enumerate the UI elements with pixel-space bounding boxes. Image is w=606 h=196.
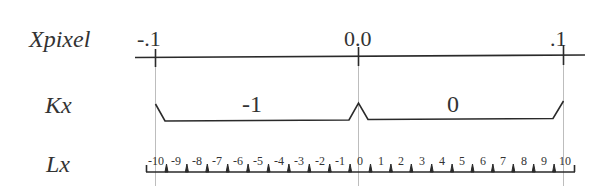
lx-label: 9 bbox=[541, 155, 547, 167]
lx-label: 2 bbox=[398, 155, 404, 167]
lx-label: 5 bbox=[459, 155, 465, 167]
lx-label: -7 bbox=[212, 155, 222, 167]
lx-label: 0 bbox=[357, 155, 363, 167]
lx-label: 1 bbox=[378, 155, 384, 167]
lx-label: 3 bbox=[419, 155, 425, 167]
lx-label: -10 bbox=[148, 155, 164, 167]
kx-step-line bbox=[156, 101, 564, 121]
lx-label: -3 bbox=[294, 155, 304, 167]
lx-label: -4 bbox=[274, 155, 284, 167]
lx-label: 8 bbox=[521, 155, 527, 167]
xpixel-axis bbox=[135, 45, 585, 67]
lx-label: -8 bbox=[192, 155, 202, 167]
lx-label: -6 bbox=[233, 155, 243, 167]
lx-label: -5 bbox=[253, 155, 263, 167]
lx-label: 4 bbox=[439, 155, 445, 167]
lx-label: 10 bbox=[559, 155, 571, 167]
lx-label: 6 bbox=[480, 155, 486, 167]
lx-label: 7 bbox=[500, 155, 506, 167]
lx-label: -2 bbox=[315, 155, 325, 167]
lx-label: -1 bbox=[335, 155, 345, 167]
lx-label: -9 bbox=[171, 155, 181, 167]
